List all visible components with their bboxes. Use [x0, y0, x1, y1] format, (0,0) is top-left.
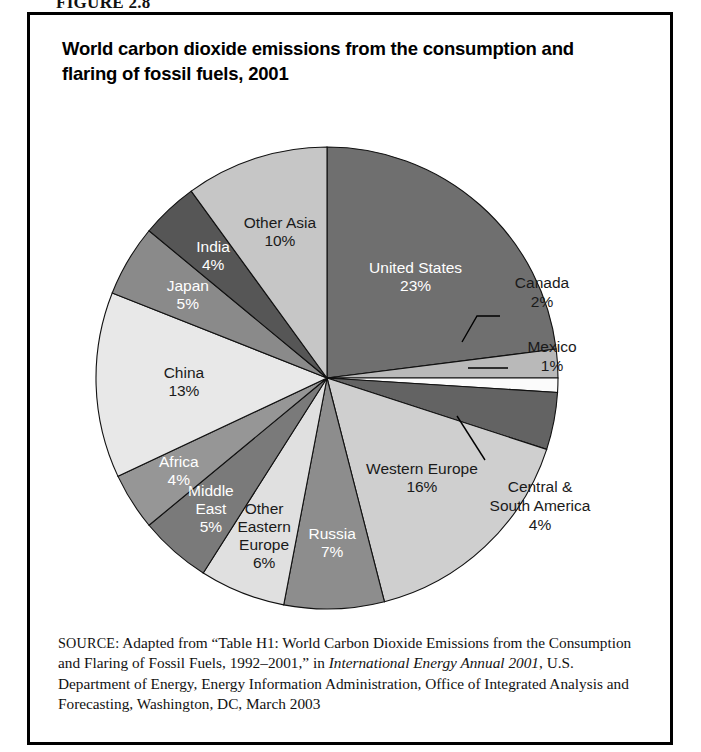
source-publication-title: International Energy Annual 2001	[329, 654, 539, 671]
source-prefix: SOURCE:	[58, 635, 119, 651]
pie-chart-svg: United States23%Western Europe16%Russia7…	[30, 120, 670, 630]
source-note: SOURCE: Adapted from “Table H1: World Ca…	[58, 633, 636, 715]
pie-slice-label: China13%	[164, 364, 205, 399]
pie-chart: United States23%Western Europe16%Russia7…	[30, 120, 670, 630]
page-title: World carbon dioxide emissions from the …	[62, 36, 622, 86]
